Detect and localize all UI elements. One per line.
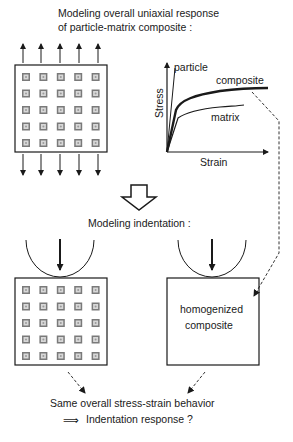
implies-arrow-icon: ⟹ [63, 414, 79, 426]
particle [92, 352, 100, 360]
particle [39, 90, 47, 98]
particle [57, 336, 65, 344]
particle [92, 286, 100, 294]
particle [22, 303, 30, 311]
particle-grid-uniaxial [22, 73, 100, 147]
particle [22, 106, 30, 114]
particle [22, 352, 30, 360]
tension-arrows-bottom [23, 154, 98, 175]
particle [39, 139, 47, 147]
particle [92, 303, 100, 311]
particle [22, 123, 30, 131]
particle [74, 90, 82, 98]
particle [39, 352, 47, 360]
title-line-1: Modeling overall uniaxial response [58, 7, 219, 19]
particle [74, 73, 82, 81]
particle [92, 73, 100, 81]
particle [57, 90, 65, 98]
homogenized-label-line-1: homogenized [180, 303, 243, 315]
particle [57, 352, 65, 360]
dashed-arrow-left-to-conclusion [68, 372, 85, 393]
composite-indentation-diagram: Modeling overall uniaxial response of pa… [0, 0, 293, 442]
particle [22, 139, 30, 147]
particle [74, 336, 82, 344]
particle [92, 139, 100, 147]
conclusion-line-1: Same overall stress-strain behavior [50, 397, 215, 409]
composite-curve-label: composite [216, 74, 264, 86]
particle [57, 319, 65, 327]
hollow-down-arrow-icon [122, 185, 156, 210]
particle [74, 303, 82, 311]
matrix-curve-label: matrix [211, 111, 240, 123]
particle [74, 139, 82, 147]
particle [57, 139, 65, 147]
particle [74, 106, 82, 114]
tension-arrows-top [23, 44, 98, 63]
particle [39, 106, 47, 114]
particle [39, 319, 47, 327]
particle [57, 303, 65, 311]
particle [92, 123, 100, 131]
particle [39, 303, 47, 311]
particle [57, 106, 65, 114]
particle [39, 73, 47, 81]
particle [92, 90, 100, 98]
indentation-heading: Modeling indentation : [88, 217, 191, 229]
particle [74, 123, 82, 131]
particle [39, 123, 47, 131]
particle [22, 286, 30, 294]
particle-grid-indentation [22, 286, 100, 360]
particle [57, 286, 65, 294]
y-axis-label: Stress [153, 88, 165, 118]
particle [92, 336, 100, 344]
particle [22, 90, 30, 98]
stress-strain-plot: Stress Strain particle composite matrix [153, 61, 268, 168]
title-line-2: of particle-matrix composite : [58, 21, 192, 33]
x-axis-label: Strain [200, 156, 228, 168]
particle [74, 286, 82, 294]
homogenized-label-line-2: composite [185, 319, 233, 331]
dashed-arrow-right-to-conclusion [188, 372, 205, 393]
particle [22, 319, 30, 327]
dashed-link-composite-to-homogenized [252, 92, 279, 296]
particle [22, 336, 30, 344]
particle [22, 73, 30, 81]
particle [92, 106, 100, 114]
particle [39, 286, 47, 294]
particle [74, 352, 82, 360]
particle [57, 73, 65, 81]
particle [74, 319, 82, 327]
particle [57, 123, 65, 131]
particle-curve-label: particle [174, 61, 208, 73]
conclusion-line-2: Indentation response ? [86, 413, 193, 425]
particle [39, 336, 47, 344]
particle [92, 319, 100, 327]
